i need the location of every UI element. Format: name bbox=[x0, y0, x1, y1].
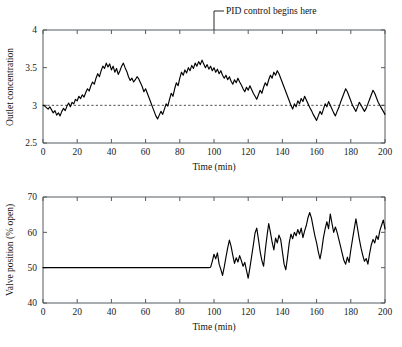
bottom-ytick-label: 60 bbox=[28, 228, 38, 238]
figure-container: 0204060801001201401601802002.533.54 PID … bbox=[0, 0, 402, 347]
pid-annotation-label: PID control begins here bbox=[226, 6, 317, 16]
top-xtick-label: 180 bbox=[344, 147, 359, 157]
figure-svg: 0204060801001201401601802002.533.54 PID … bbox=[0, 0, 402, 347]
bottom-xtick-label: 80 bbox=[175, 307, 185, 317]
bottom-xtick-label: 160 bbox=[309, 307, 324, 317]
bottom-xtick-label: 60 bbox=[141, 307, 151, 317]
bottom-xtick-label: 20 bbox=[72, 307, 82, 317]
top-xtick-label: 80 bbox=[175, 147, 185, 157]
top-xtick-label: 40 bbox=[107, 147, 117, 157]
top-xtick-label: 0 bbox=[41, 147, 46, 157]
top-xtick-label: 200 bbox=[378, 147, 393, 157]
top-xtick-label: 20 bbox=[72, 147, 82, 157]
bottom-xtick-label: 100 bbox=[207, 307, 222, 317]
bottom-xtick-label: 40 bbox=[107, 307, 117, 317]
top-xtick-label: 100 bbox=[207, 147, 222, 157]
top-x-axis-title: Time (min) bbox=[192, 162, 235, 173]
bottom-ytick-label: 40 bbox=[28, 298, 38, 308]
top-xtick-label: 60 bbox=[141, 147, 151, 157]
top-xtick-label: 160 bbox=[309, 147, 324, 157]
figure-background bbox=[0, 0, 402, 347]
bottom-ytick-label: 50 bbox=[28, 263, 38, 273]
top-xtick-label: 120 bbox=[241, 147, 256, 157]
bottom-xtick-label: 140 bbox=[275, 307, 290, 317]
top-ytick-label: 3.5 bbox=[25, 63, 37, 73]
bottom-y-axis-title: Valve position (% open) bbox=[5, 204, 16, 296]
bottom-xtick-label: 0 bbox=[41, 307, 46, 317]
bottom-ytick-label: 70 bbox=[28, 192, 38, 202]
top-ytick-label: 2.5 bbox=[25, 138, 37, 148]
top-y-axis-title: Outlet concentration bbox=[5, 48, 15, 126]
top-ytick-label: 4 bbox=[32, 25, 37, 35]
top-xtick-label: 140 bbox=[275, 147, 290, 157]
bottom-x-axis-title: Time (min) bbox=[192, 322, 235, 333]
bottom-xtick-label: 200 bbox=[378, 307, 393, 317]
bottom-xtick-label: 180 bbox=[344, 307, 359, 317]
bottom-xtick-label: 120 bbox=[241, 307, 256, 317]
top-ytick-label: 3 bbox=[32, 101, 37, 111]
